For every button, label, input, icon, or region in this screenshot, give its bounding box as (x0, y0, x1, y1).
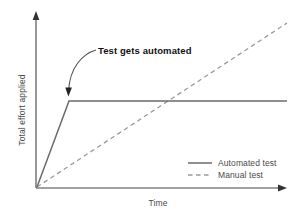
x-axis-label: Time (149, 198, 168, 208)
chart-figure: Total effort applied Time Test gets auto… (0, 0, 300, 220)
legend-label-manual-test: Manual test (218, 170, 263, 180)
annotation-text: Test gets automated (98, 45, 192, 56)
annotation-arrow (65, 50, 96, 97)
y-axis (33, 11, 40, 188)
annotation-arrowhead (65, 87, 72, 96)
y-axis-arrowhead (33, 11, 40, 20)
legend-label-automated-test: Automated test (218, 158, 277, 168)
chart-plot-area (0, 0, 300, 220)
x-axis-arrowhead (278, 185, 287, 192)
x-axis (36, 185, 287, 192)
y-axis-label: Total effort applied (17, 74, 27, 145)
